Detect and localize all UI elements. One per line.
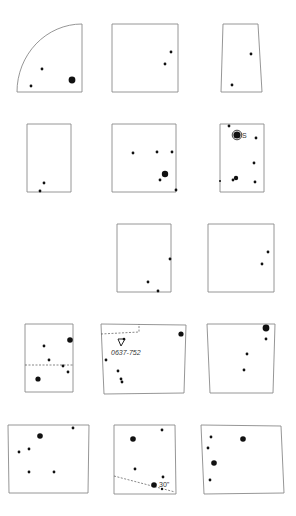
star-dot [156,151,159,154]
star-dot [233,131,240,138]
chart-panel-r1c3 [221,24,262,92]
star-dot [261,263,264,266]
star-dot [43,345,46,348]
star-dot [132,152,135,155]
panel-border [221,24,262,92]
panel-border [112,124,176,192]
star-dot [253,162,256,165]
star-dot [28,471,31,474]
star-dot [240,436,246,442]
star-dot [39,190,42,193]
star-dot [169,258,172,261]
panel-border [27,124,71,192]
chart-panel-r3c3 [208,224,274,292]
star-dot [243,369,246,372]
star-dot [72,427,75,430]
star-dot [30,85,33,88]
star-dot [62,365,65,368]
star-dot [255,137,258,140]
star-dot [159,179,162,182]
star-dot [209,479,212,482]
star-dot [228,125,231,128]
panel-label: 0637-752 [111,349,141,356]
star-dot [232,179,235,182]
chart-panel-r4c1 [25,324,73,392]
panel-border [207,324,275,393]
star-dot [48,359,51,362]
chart-panel-r2c2 [112,124,177,192]
star-dot [170,51,173,54]
star-dot [67,371,70,374]
star-dot [171,151,174,154]
star-dot [175,189,178,192]
star-dot [178,331,183,336]
star-dot [117,370,120,373]
panel-border [201,425,284,494]
chart-panel-r1c2 [112,24,178,92]
chart-panel-r2c1 [27,124,71,192]
star-dot [157,290,160,293]
star-dot [219,180,221,182]
panel-label: S [242,132,247,139]
star-dot [151,482,157,488]
panel-border [101,324,186,394]
star-dot [250,53,253,56]
star-dot [210,436,213,439]
finding-charts-figure: S0637-75230" [0,0,296,516]
chart-panel-r5c3 [201,425,284,494]
star-dot [147,281,150,284]
chart-panel-r4c2: 0637-752 [101,324,186,394]
star-dot [246,353,249,356]
star-dot [164,63,167,66]
star-dot [265,338,268,341]
chart-panel-r5c1 [8,425,89,493]
panel-border [112,24,178,92]
target-marker-icon [118,338,125,346]
star-dot [67,337,73,343]
star-dot [211,460,217,466]
chart-panel-r1c1 [17,24,82,92]
star-dot [162,476,165,479]
star-dot [234,176,238,180]
star-dot [130,436,136,442]
panel-label: 30" [159,481,170,488]
panel-border [208,224,274,292]
star-dot [263,325,270,332]
star-dot [35,376,40,381]
chart-panel-r3c2 [117,224,171,292]
star-dot [254,181,257,184]
star-dot [18,451,21,454]
panel-border [117,224,171,292]
star-dot [53,471,56,474]
star-dot [69,77,76,84]
star-dot [162,171,168,177]
star-dot [267,251,270,254]
dashed-boundary-box [101,324,139,334]
star-dot [105,359,108,362]
star-dot [231,84,234,87]
star-dot [41,68,44,71]
star-dot [120,378,123,381]
star-dot [37,433,43,439]
star-dot [161,429,164,432]
chart-panel-r5c2: 30" [114,425,176,494]
star-dot [161,488,163,490]
star-dot [28,448,31,451]
star-dot [43,182,46,185]
chart-panel-r2c3: S [219,124,264,192]
star-dot [121,381,124,384]
star-dot [207,447,210,450]
panel-border [25,324,73,392]
chart-panel-r4c3 [207,324,275,393]
panel-border [8,425,89,493]
star-dot [134,468,137,471]
